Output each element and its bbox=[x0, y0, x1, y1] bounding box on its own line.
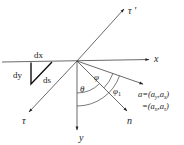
coordinate-diagram: x y τ τ ' n φ θ φ1 a=(ay,ax) =(an,aτ) dx… bbox=[0, 0, 184, 145]
tau-axis-line bbox=[29, 61, 77, 112]
phi1-label: φ1 bbox=[113, 86, 121, 97]
dy-label: dy bbox=[13, 70, 23, 80]
a-eq2-prefix: =(a bbox=[142, 101, 155, 111]
a-equation-line2: =(an,aτ) bbox=[142, 101, 169, 112]
x-axis-line bbox=[2, 60, 149, 63]
ds-label: ds bbox=[43, 75, 52, 85]
phi-arc bbox=[104, 74, 113, 88]
dx-label: dx bbox=[34, 50, 44, 60]
a-equation-line1: a=(ay,ax) bbox=[138, 89, 169, 100]
a-eq1-suffix: ) bbox=[165, 89, 169, 99]
a-eq2-suffix: ) bbox=[165, 101, 169, 111]
a-eq1-prefix: a=(a bbox=[138, 89, 155, 99]
phi-label: φ bbox=[94, 72, 99, 82]
tau-prime-axis-label: τ ' bbox=[128, 5, 137, 16]
tau-prime-axis-line bbox=[77, 9, 124, 61]
x-axis-label: x bbox=[153, 53, 159, 64]
tau-axis-label: τ bbox=[22, 115, 26, 126]
n-axis-line bbox=[77, 61, 127, 111]
phi1-subscript: 1 bbox=[118, 91, 121, 97]
n-axis-label: n bbox=[127, 115, 132, 126]
theta-label: θ bbox=[80, 84, 85, 94]
y-axis-label: y bbox=[78, 132, 84, 143]
